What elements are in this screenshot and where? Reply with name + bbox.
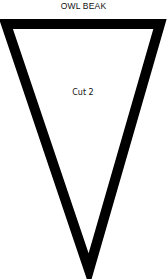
cut-instruction-label: Cut 2	[58, 88, 108, 97]
beak-triangle-outline	[0, 0, 167, 279]
